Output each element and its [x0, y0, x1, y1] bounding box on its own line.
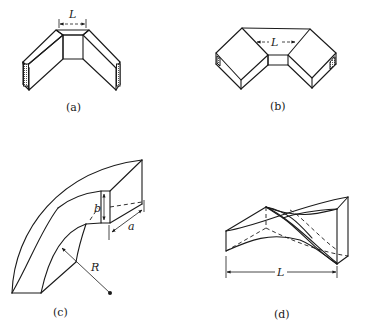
- caption-b: (b): [270, 100, 286, 113]
- outer-arc: [12, 160, 142, 293]
- corner-front-face: [63, 35, 83, 59]
- center-point: [108, 291, 112, 295]
- panel-c-curved-bend: b a R (c): [12, 160, 144, 319]
- label-b: b: [94, 202, 101, 215]
- twist-edge-curve: [266, 207, 337, 264]
- middle-section: [268, 55, 288, 65]
- left-arm-side: [24, 35, 63, 90]
- radius-arrow-R: [62, 248, 110, 293]
- label-L: L: [276, 266, 284, 279]
- top-edge: [242, 28, 310, 29]
- bottom-radial-edge: [41, 262, 76, 293]
- label-L: L: [270, 36, 278, 49]
- caption-d: (d): [274, 308, 290, 321]
- front-face: [101, 191, 110, 223]
- panel-b-h-plane-bend: L (b): [216, 28, 336, 113]
- right-end-hatch: [117, 64, 121, 86]
- inner-arc: [41, 224, 86, 293]
- label-a: a: [128, 220, 135, 233]
- right-arm-top: [83, 30, 120, 68]
- caption-a: (a): [66, 101, 81, 114]
- caption-c: (c): [53, 306, 68, 319]
- twist-bottom-curve: [226, 237, 337, 264]
- panel-d-twist: L (d): [226, 197, 348, 321]
- left-arm-top: [23, 30, 63, 68]
- left-end-hatch: [24, 64, 29, 86]
- twist-top-curve: [226, 197, 348, 231]
- label-R: R: [90, 261, 99, 274]
- panel-a-e-plane-bend: L (a): [23, 8, 120, 114]
- waveguide-diagram: L (a) L (b): [0, 0, 367, 327]
- left-end-hatch: [217, 56, 220, 66]
- label-L: L: [68, 8, 76, 21]
